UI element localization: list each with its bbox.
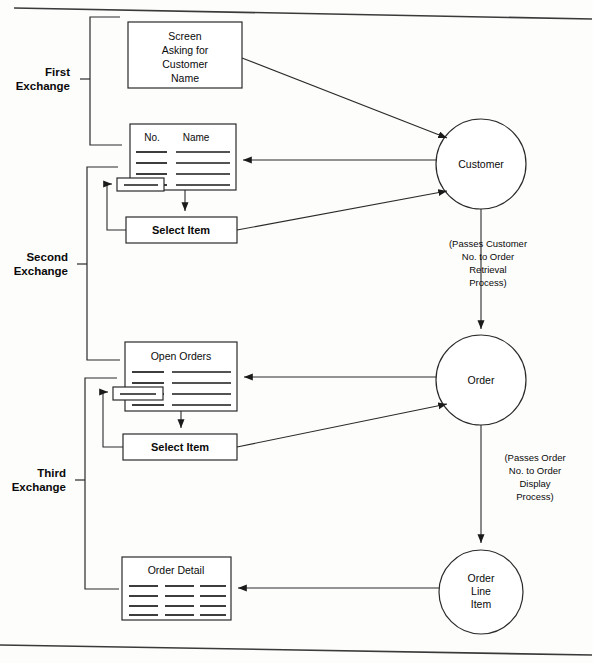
customer-list-col-name: Name (183, 132, 210, 143)
open-orders-title: Open Orders (151, 350, 212, 362)
flow-screen-to-customer (242, 58, 447, 138)
customer-list-col-no: No. (144, 132, 160, 143)
process-order-label: Order (468, 374, 495, 386)
box-select-item-1: Select Item (126, 217, 237, 243)
exchange-label-third-line1: Third (37, 467, 66, 479)
screen-prompt-line-1: Screen (168, 30, 201, 42)
process-order-line-item-line-3: Item (471, 598, 492, 610)
select-item-1-label: Select Item (152, 224, 210, 236)
exchange-label-first-line2: Exchange (16, 80, 70, 92)
process-order: Order (436, 335, 526, 425)
flow-select-item-1-to-customer (237, 191, 447, 230)
annotation-customer-to-order-line-1: (Passes Customer (449, 238, 527, 249)
box-screen-prompt: Screen Asking for Customer Name (128, 22, 242, 88)
process-customer-label: Customer (458, 158, 504, 170)
annotation-order-to-line-item-line-1: (Passes Order (504, 452, 565, 463)
annotation-order-to-line-item-line-3: Display (519, 478, 550, 489)
order-detail-title: Order Detail (148, 564, 205, 576)
screen-prompt-line-3: Customer (162, 58, 208, 70)
process-order-line-item-line-2: Line (471, 585, 491, 597)
process-order-line-item: Order Line Item (439, 550, 523, 634)
box-customer-list: No. Name (117, 124, 236, 191)
box-select-item-2: Select Item (123, 434, 237, 460)
annotation-customer-to-order-line-2: No. to Order (462, 251, 514, 262)
bracket-third-exchange (75, 378, 119, 589)
annotation-order-to-line-item-line-2: No. to Order (509, 465, 561, 476)
select-item-2-label: Select Item (151, 441, 209, 453)
process-order-line-item-line-1: Order (468, 572, 495, 584)
box-order-detail: Order Detail (122, 557, 231, 620)
diagram-page: First Exchange Second Exchange Third Exc… (0, 0, 593, 663)
box-open-orders: Open Orders (113, 342, 237, 411)
annotation-order-to-line-item-line-4: Process) (516, 491, 553, 502)
screen-prompt-line-2: Asking for (162, 44, 209, 56)
bracket-first-exchange (80, 17, 122, 145)
annotation-customer-to-order: (Passes Customer No. to Order Retrieval … (449, 238, 527, 288)
flow-select-item-2-to-order (237, 404, 447, 447)
annotation-customer-to-order-line-4: Process) (469, 277, 506, 288)
exchange-label-first-line1: First (45, 66, 70, 78)
screen-prompt-line-4: Name (171, 72, 199, 84)
annotation-customer-to-order-line-3: Retrieval (469, 264, 507, 275)
dataflow-diagram: First Exchange Second Exchange Third Exc… (0, 0, 593, 663)
annotation-order-to-line-item: (Passes Order No. to Order Display Proce… (504, 452, 565, 502)
exchange-label-second-line1: Second (26, 251, 68, 263)
bracket-second-exchange (77, 167, 120, 360)
bottom-rule (0, 645, 592, 655)
process-customer: Customer (436, 119, 526, 209)
exchange-label-third-line2: Exchange (12, 481, 66, 493)
exchange-label-second-line2: Exchange (14, 265, 68, 277)
